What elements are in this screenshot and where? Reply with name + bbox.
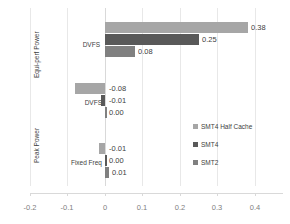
category-label-fixed-freq: Fixed Freq (52, 159, 102, 167)
x-tick-label: 0.3 (202, 203, 232, 212)
bar-smt2-peak-fixedfreq[interactable] (105, 167, 109, 178)
bar-smt4-half-cache-equiperf-dvfs[interactable] (105, 22, 248, 33)
bar-smt2-equiperf-dvfs[interactable] (105, 46, 135, 57)
legend-label: SMT4 (201, 141, 218, 148)
x-axis-tick (255, 193, 256, 196)
legend-swatch-icon (193, 142, 198, 147)
legend-swatch-icon (193, 124, 198, 129)
bar-value-label: 0.08 (138, 46, 153, 57)
bar-smt4-half-cache-peak-dvfs[interactable] (75, 83, 105, 94)
x-axis-tick (67, 193, 68, 196)
x-axis-tick (217, 193, 218, 196)
legend-item-smt2[interactable]: SMT2 (193, 156, 252, 168)
bar-value-label: -0.08 (109, 83, 126, 94)
x-axis-tick (30, 193, 31, 196)
group-label-peak-power: Peak Power (33, 128, 40, 163)
group-label-equi-perf-power: Equi-perf Power (33, 31, 40, 78)
bar-value-label: 0.00 (109, 155, 124, 166)
legend: SMT4 Half Cache SMT4 SMT2 (193, 120, 252, 174)
x-axis-tick (180, 193, 181, 196)
category-label-dvfs-equiperf: DVFS (60, 41, 100, 49)
bar-value-label: -0.01 (109, 143, 126, 154)
bar-value-label: -0.01 (109, 95, 126, 106)
bar-smt4-equiperf-dvfs[interactable] (105, 34, 199, 45)
x-tick-label: 0.4 (240, 203, 270, 212)
bar-value-label: 0.38 (251, 22, 266, 33)
bar-smt4-half-cache-peak-fixedfreq[interactable] (99, 143, 105, 154)
x-tick-label: -0.2 (15, 203, 45, 212)
x-tick-label: 0.2 (165, 203, 195, 212)
legend-item-smt4[interactable]: SMT4 (193, 138, 252, 150)
bar-value-label: 0.25 (202, 34, 217, 45)
legend-item-smt4-half-cache[interactable]: SMT4 Half Cache (193, 120, 252, 132)
bar-smt2-peak-dvfs[interactable] (105, 107, 107, 118)
x-tick-label: 0.1 (127, 203, 157, 212)
bar-value-label: 0.01 (112, 167, 127, 178)
category-label-dvfs-peak: DVFS (60, 99, 102, 107)
bar-chart: Equi-perf Power DVFS 0.38 0.25 0.08 Peak… (0, 0, 290, 224)
legend-label: SMT2 (201, 159, 218, 166)
x-axis-tick (105, 193, 106, 196)
gridline-0.4 (255, 8, 256, 186)
x-axis-tick (142, 193, 143, 196)
gridline--0.2 (30, 8, 31, 186)
bar-value-label: 0.00 (109, 107, 124, 118)
x-tick-label: 0 (90, 203, 120, 212)
legend-swatch-icon (193, 160, 198, 165)
x-tick-label: -0.1 (52, 203, 82, 212)
bar-smt4-peak-dvfs[interactable] (101, 95, 105, 106)
bar-smt4-peak-fixedfreq[interactable] (105, 155, 107, 166)
legend-label: SMT4 Half Cache (201, 123, 252, 130)
